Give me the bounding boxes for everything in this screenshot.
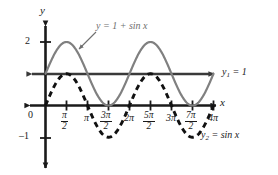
x-tick-label-7pi-over-2: 7π 2 <box>185 111 197 131</box>
x-tick-label-5pi-over-2: 5π 2 <box>143 111 155 131</box>
x-tick-label-3pi: 3π <box>166 113 176 123</box>
x-axis-label: x <box>220 97 225 108</box>
x-tick-3pi-over-2-denominator: 2 <box>100 122 112 132</box>
x-tick-label-3pi-over-2: 3π 2 <box>100 111 112 131</box>
x-tick-label-pi: π <box>84 113 89 123</box>
x-tick-pi-over-2-denominator: 2 <box>61 122 68 132</box>
x-tick-label-4pi: 4π <box>208 113 218 123</box>
curve-one-plus-sin-x-label: y = 1 + sin x <box>96 21 148 31</box>
y-tick-label-2: 2 <box>25 36 30 46</box>
x-tick-label-pi-over-2: π 2 <box>61 111 68 131</box>
x-tick-7pi-over-2-denominator: 2 <box>185 122 197 132</box>
math-figure: y x 0 2 –1 π 2 π 3π 2 2π 5π 2 3π 7π 2 4π… <box>0 0 278 175</box>
x-tick-5pi-over-2-denominator: 2 <box>143 122 155 132</box>
origin-label: 0 <box>28 110 33 120</box>
callout-arrow <box>79 32 96 49</box>
x-tick-label-2pi: 2π <box>124 113 134 123</box>
curve-y2-label-rest: = sin x <box>211 129 239 140</box>
line-y1-label-rest: = 1 <box>232 66 246 77</box>
y-tick-label-neg1: –1 <box>19 131 29 141</box>
curve-sin-x-label: y2 = sin x <box>201 130 239 142</box>
y-axis-label: y <box>40 5 45 16</box>
line-y1-label: y1 = 1 <box>222 67 247 79</box>
